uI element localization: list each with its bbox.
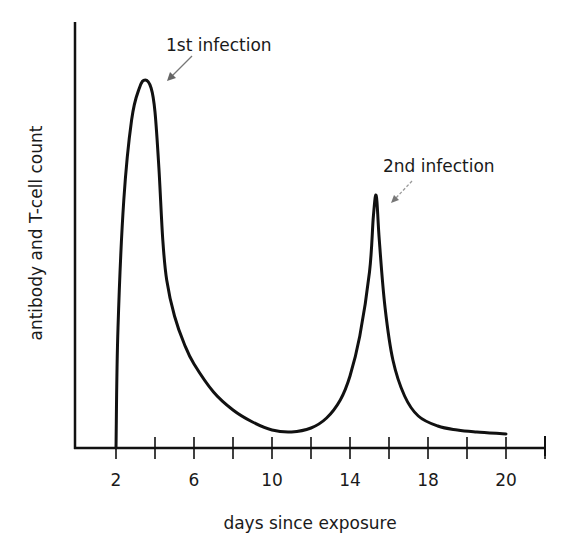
- arrow-icon: [391, 181, 412, 203]
- x-tick-label: 14: [339, 470, 361, 490]
- x-tick-label: 10: [261, 470, 283, 490]
- x-axis-label: days since exposure: [223, 513, 396, 533]
- annotation-2nd-infection: 2nd infection: [383, 156, 495, 176]
- x-tick-label: 20: [495, 470, 517, 490]
- x-tick-label: 2: [111, 470, 122, 490]
- data-line: [116, 80, 506, 448]
- y-axis-label: antibody and T-cell count: [26, 125, 46, 340]
- x-tick-label: 6: [189, 470, 200, 490]
- chart-canvas: 2610141820 1st infection 2nd infection d…: [0, 0, 577, 550]
- x-tick-label: 18: [417, 470, 439, 490]
- arrow-icon: [167, 56, 192, 81]
- x-axis-tick-labels: 2610141820: [111, 470, 517, 490]
- annotation-1st-infection: 1st infection: [166, 35, 272, 55]
